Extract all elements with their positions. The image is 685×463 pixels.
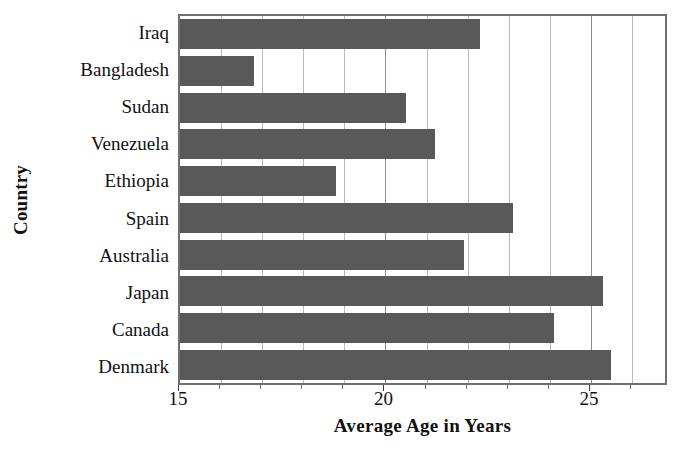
bar-row bbox=[180, 346, 665, 383]
y-axis-tick-labels: IraqBangladeshSudanVenezuelaEthiopiaSpai… bbox=[40, 14, 174, 385]
x-axis-tick-label: 15 bbox=[169, 389, 188, 410]
bar bbox=[180, 313, 554, 343]
x-axis-tick-labels: 152025 bbox=[0, 389, 685, 415]
bar bbox=[180, 203, 513, 233]
bar-row bbox=[180, 53, 665, 90]
y-axis-tick-label: Sudan bbox=[40, 88, 174, 125]
y-axis-tick-label: Bangladesh bbox=[40, 51, 174, 88]
y-axis-title: Country bbox=[4, 130, 38, 270]
y-axis-tick-label: Japan bbox=[40, 274, 174, 311]
bar bbox=[180, 350, 611, 380]
x-axis-title: Average Age in Years bbox=[178, 415, 667, 437]
plot-area bbox=[178, 14, 667, 385]
bar-row bbox=[180, 89, 665, 126]
bar-row bbox=[180, 273, 665, 310]
bar bbox=[180, 19, 480, 49]
x-axis-tick-label: 25 bbox=[579, 389, 598, 410]
y-axis-tick-label: Venezuela bbox=[40, 125, 174, 162]
y-axis-tick-label: Iraq bbox=[40, 14, 174, 51]
bar-row bbox=[180, 236, 665, 273]
y-axis-tick-label: Spain bbox=[40, 199, 174, 236]
x-axis-tick-label: 20 bbox=[374, 389, 393, 410]
y-axis-tick-label: Ethiopia bbox=[40, 162, 174, 199]
y-axis-tick-label: Denmark bbox=[40, 348, 174, 385]
bar bbox=[180, 56, 254, 86]
bar-row bbox=[180, 16, 665, 53]
bar bbox=[180, 129, 435, 159]
y-axis-tick-label: Canada bbox=[40, 311, 174, 348]
bar-row bbox=[180, 126, 665, 163]
bar-row bbox=[180, 200, 665, 237]
bar bbox=[180, 276, 603, 306]
bar-chart-figure: Country IraqBangladeshSudanVenezuelaEthi… bbox=[0, 0, 685, 463]
y-axis-title-text: Country bbox=[10, 165, 32, 235]
bar-row bbox=[180, 163, 665, 200]
bar bbox=[180, 240, 464, 270]
bar bbox=[180, 93, 406, 123]
bar-row bbox=[180, 310, 665, 347]
bars-layer bbox=[180, 16, 665, 383]
y-axis-tick-label: Australia bbox=[40, 237, 174, 274]
bar bbox=[180, 166, 336, 196]
